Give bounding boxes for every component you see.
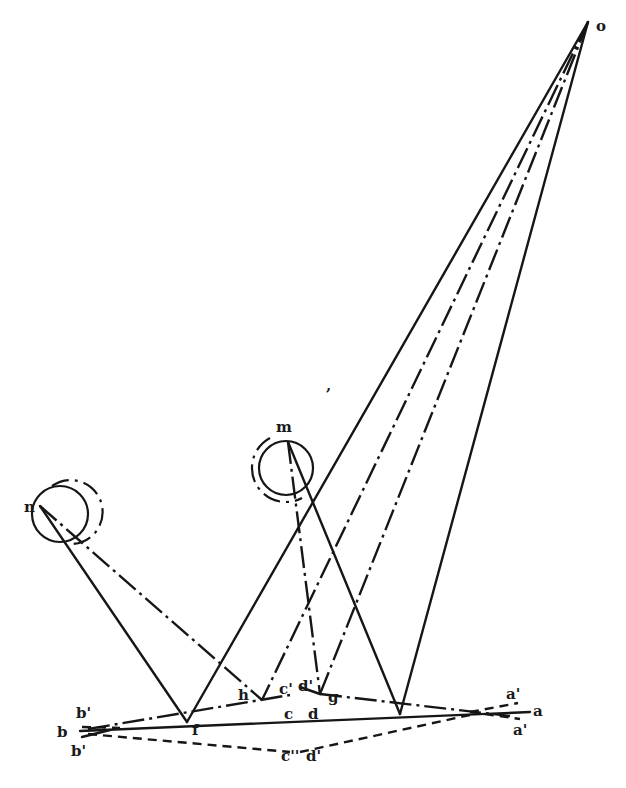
optics-diagram: o m n h c' d' g f c d b b' b' c'' d' a a…	[0, 0, 626, 788]
label-o: o	[596, 17, 606, 35]
line-a-upper	[470, 703, 518, 712]
line-b-upper	[82, 727, 120, 728]
stray-mark: ,	[326, 376, 331, 394]
label-d: d	[308, 705, 319, 723]
ray-o-to-foot	[400, 22, 588, 714]
label-g: g	[328, 688, 339, 706]
ray-o-to-f	[187, 22, 588, 722]
circle-m-solid	[259, 441, 313, 495]
label-c-prime-upper: c'	[279, 680, 293, 698]
baseline-b-a	[80, 712, 530, 731]
label-m: m	[276, 418, 292, 436]
diagram-canvas: o m n h c' d' g f c d b b' b' c'' d' a a…	[0, 0, 626, 788]
ray-n-to-f	[40, 506, 187, 722]
ray-m-to-foot	[288, 442, 400, 714]
label-d-prime-lower: d'	[306, 747, 321, 765]
ray-o-to-c-prime	[262, 22, 588, 700]
label-h: h	[238, 686, 249, 704]
line-b-to-c-double-prime	[88, 734, 290, 752]
label-c: c	[284, 705, 293, 723]
line-g-to-a	[320, 694, 510, 716]
label-a: a	[533, 702, 543, 720]
label-b-upper: b'	[76, 704, 91, 722]
label-b-lower: b'	[71, 742, 86, 760]
label-d-prime-upper: d'	[298, 677, 313, 695]
label-a-upper: a'	[506, 685, 520, 703]
label-b: b	[57, 723, 68, 741]
ray-o-to-g	[320, 22, 588, 694]
label-f: f	[192, 721, 200, 739]
label-a-lower: a'	[513, 721, 527, 739]
label-c-double-prime: c''	[281, 747, 299, 765]
label-n: n	[24, 498, 35, 516]
